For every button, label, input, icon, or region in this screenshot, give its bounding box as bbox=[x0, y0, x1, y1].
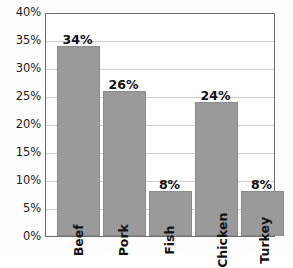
bar-beef: Beef bbox=[57, 46, 100, 236]
bar-category-label: Turkey bbox=[259, 217, 272, 264]
bar-category-label: Beef bbox=[72, 224, 85, 256]
bar-fish: Fish bbox=[149, 191, 192, 236]
y-axis-tick-label: 5% bbox=[1, 203, 41, 215]
bar-turkey: Turkey bbox=[241, 191, 284, 236]
bar-category-label: Chicken bbox=[217, 213, 230, 268]
data-label-beef: 34% bbox=[56, 34, 99, 47]
y-axis-tick-label: 40% bbox=[1, 7, 41, 19]
y-axis-tick-label: 15% bbox=[1, 147, 41, 159]
y-axis-tick-label: 20% bbox=[1, 119, 41, 131]
y-axis-tick-label: 0% bbox=[1, 231, 41, 243]
y-axis-tick-label: 35% bbox=[1, 35, 41, 47]
data-label-pork: 26% bbox=[102, 79, 145, 92]
data-label-turkey: 8% bbox=[240, 179, 283, 192]
y-axis-tick-label: 30% bbox=[1, 63, 41, 75]
bar-category-label: Pork bbox=[118, 224, 131, 256]
data-label-fish: 8% bbox=[148, 179, 191, 192]
bar-chicken: Chicken bbox=[195, 102, 238, 236]
data-label-chicken: 24% bbox=[194, 90, 237, 103]
bar-pork: Pork bbox=[103, 91, 146, 236]
bar-category-label: Fish bbox=[164, 226, 177, 255]
y-axis-tick-label: 25% bbox=[1, 91, 41, 103]
y-axis-tick-label: 10% bbox=[1, 175, 41, 187]
